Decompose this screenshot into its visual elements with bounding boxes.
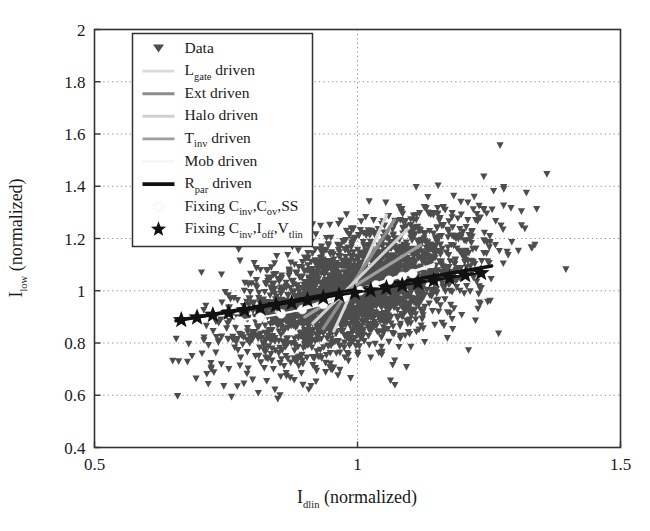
- scatter-plot: 0.511.5 0.40.60.811.21.41.61.82 Idlin (n…: [0, 0, 650, 531]
- y-tick-label: 0.6: [64, 386, 85, 405]
- series-marker-circle: [235, 316, 244, 325]
- legend[interactable]: DataLgate drivenExt drivenHalo drivenTin…: [133, 34, 313, 247]
- series-marker-circle: [256, 313, 265, 322]
- series-marker-circle: [408, 269, 417, 278]
- x-tick-label: 1: [353, 455, 362, 474]
- y-tick-label: 2: [77, 21, 86, 40]
- legend-circle-icon: [154, 202, 163, 211]
- y-tick-label: 1: [77, 282, 86, 301]
- x-tick-label: 1.5: [610, 455, 631, 474]
- y-tick-label: 1.4: [64, 177, 86, 196]
- series-marker-circle: [298, 305, 307, 314]
- series-marker-circle: [277, 309, 286, 318]
- y-tick-label: 1.2: [64, 230, 85, 249]
- y-tick-label: 1.8: [64, 73, 85, 92]
- legend-item-label: Halo driven: [185, 106, 259, 123]
- figure-container: 0.511.5 0.40.60.811.21.41.61.82 Idlin (n…: [0, 0, 650, 531]
- y-tick-label: 0.8: [64, 334, 85, 353]
- y-tick-label: 0.4: [64, 439, 86, 458]
- legend-item-label: Data: [185, 39, 214, 56]
- legend-item-label: Mob driven: [185, 152, 258, 169]
- y-tick-label: 1.6: [64, 125, 85, 144]
- x-tick-label: 0.5: [84, 455, 105, 474]
- legend-item-label: Ext driven: [185, 84, 250, 101]
